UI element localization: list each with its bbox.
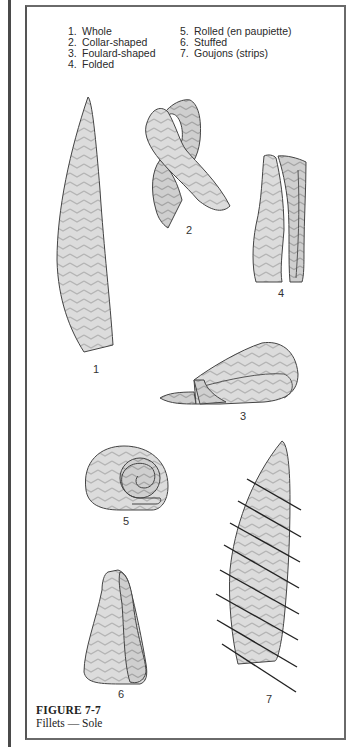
- figure-3-foulard-shaped: [160, 342, 298, 404]
- figure-title: Fillets — Sole: [36, 717, 102, 729]
- figure-label-3: 3: [240, 410, 246, 422]
- figure-number: FIGURE 7-7: [36, 704, 102, 716]
- figure-label-7: 7: [266, 693, 272, 705]
- figure-label-5: 5: [123, 515, 129, 527]
- figure-6-stuffed: [84, 570, 147, 684]
- figure-label-1: 1: [93, 363, 99, 375]
- fillet-illustrations: [0, 0, 360, 747]
- figure-1-whole-fillet: [57, 97, 113, 352]
- figure-7-goujons-strips: [216, 441, 301, 692]
- figure-5-rolled: [85, 446, 168, 510]
- figure-2-collar-shaped: [146, 100, 230, 228]
- figure-caption: FIGURE 7-7 Fillets — Sole: [36, 704, 102, 729]
- figure-label-6: 6: [118, 688, 124, 700]
- figure-4-folded: [253, 155, 306, 282]
- figure-label-2: 2: [186, 224, 192, 236]
- figure-label-4: 4: [278, 287, 284, 299]
